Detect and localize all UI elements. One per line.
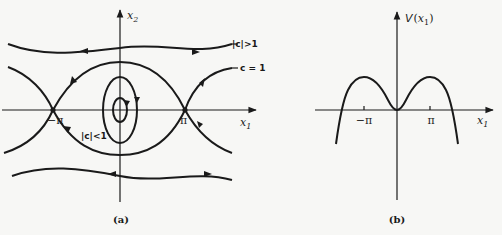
panel-a: x2 x1 −π π |c|>1 c = 1 |c|<1 (a) (2, 9, 265, 225)
arrow-icon (108, 171, 116, 177)
separatrix-right-upper (185, 68, 232, 110)
saddle-point-left (50, 107, 55, 112)
x1-axis-label: x1 (240, 116, 251, 131)
caption-a: (a) (113, 214, 129, 225)
tick-label-neg-pi: −π (47, 114, 63, 127)
saddle-point-right (182, 107, 187, 112)
label-c-equals-1: c = 1 (240, 63, 265, 73)
tick-label-pi-b: π (427, 114, 434, 127)
caption-b: (b) (389, 214, 405, 225)
separatrix-left-upper (8, 67, 53, 110)
v-axis-label: V(x1) (405, 12, 433, 27)
trajectory-outer-bottom (12, 168, 232, 180)
x2-axis-label: x2 (127, 9, 138, 24)
arrow-icon (197, 121, 203, 128)
separatrix-upper (53, 62, 185, 110)
separatrix-left-lower (4, 110, 53, 153)
tick-label-pi: π (180, 114, 187, 127)
separatrix-right-lower (185, 110, 232, 153)
phase-portrait-figure: x2 x1 −π π |c|>1 c = 1 |c|<1 (a) V(x1) x… (0, 0, 502, 235)
x1-axis-label-b: x1 (477, 114, 488, 129)
label-c-greater-1: |c|>1 (232, 39, 258, 49)
panel-b: V(x1) x1 −π π (b) (315, 12, 493, 225)
separatrix-lower (53, 110, 185, 155)
arrow-icon (80, 48, 88, 54)
arrow-icon (134, 97, 140, 103)
tick-label-neg-pi-b: −π (356, 114, 372, 127)
label-c-less-1: |c|<1 (81, 131, 107, 141)
